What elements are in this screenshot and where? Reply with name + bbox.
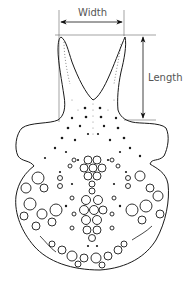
stipple-dots — [72, 100, 115, 135]
width-label: Width — [78, 8, 107, 18]
central-tubercle-column — [80, 156, 108, 242]
tubercle-marks — [44, 107, 141, 247]
measurement-guides — [55, 10, 156, 122]
length-label: Length — [148, 73, 183, 83]
carapace-diagram: Width Length — [0, 0, 191, 283]
diagram-drawing — [0, 0, 191, 283]
carapace-outline — [16, 37, 169, 270]
